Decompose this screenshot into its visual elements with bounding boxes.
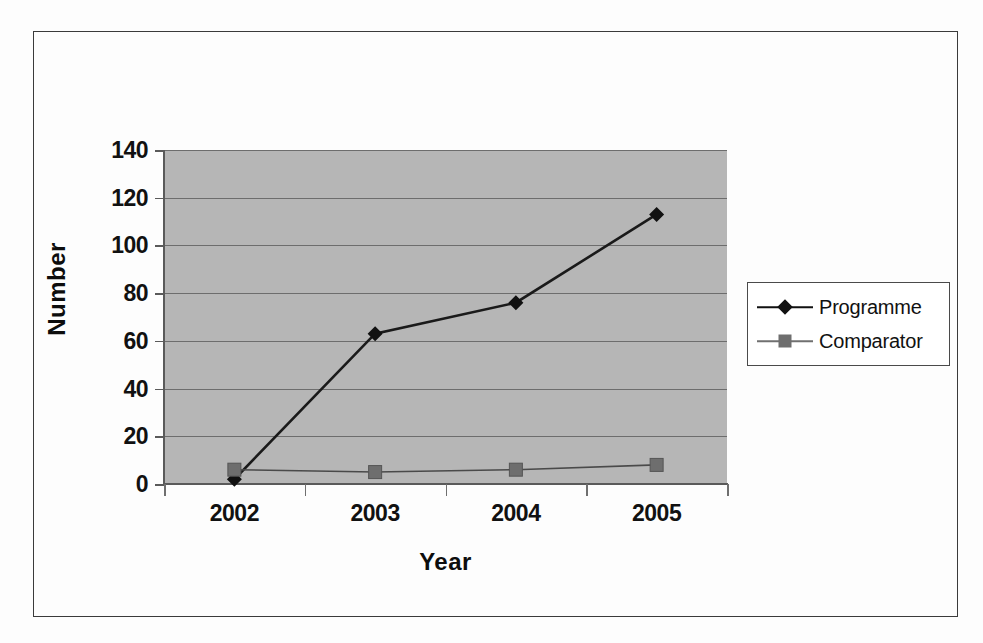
data-point-diamond-icon	[649, 207, 664, 222]
legend-marker-diamond-icon	[757, 296, 813, 318]
series-line	[234, 465, 656, 472]
x-axis-tick-label: 2005	[632, 500, 681, 527]
y-axis-tick-label: 60	[123, 327, 148, 354]
y-axis-title: Number	[43, 224, 71, 354]
y-axis-tick-label: 120	[111, 184, 148, 211]
x-axis-tick-label: 2004	[491, 500, 540, 527]
y-axis-tick-mark	[155, 245, 164, 247]
series-programme	[227, 207, 664, 487]
x-axis-tick-mark	[305, 484, 307, 496]
series-line	[234, 214, 656, 479]
y-axis-tick-mark	[155, 484, 164, 486]
y-axis-tick-labels: 020406080100120140	[86, 150, 148, 484]
x-axis-tick-mark	[727, 484, 729, 496]
y-axis-tick-mark	[155, 293, 164, 295]
legend-item-programme[interactable]: Programme	[748, 290, 949, 324]
x-axis-tick-mark	[164, 484, 166, 496]
series-comparator	[228, 458, 663, 478]
y-axis-tick-mark	[155, 341, 164, 343]
y-axis-tick-label: 100	[111, 232, 148, 259]
x-axis-title: Year	[164, 548, 727, 576]
y-axis-tick-label: 40	[123, 375, 148, 402]
y-axis-tick-mark	[155, 198, 164, 200]
data-point-square-icon	[228, 463, 241, 476]
data-point-diamond-icon	[508, 295, 523, 310]
y-axis-tick-label: 80	[123, 280, 148, 307]
y-axis-tick-mark	[155, 150, 164, 152]
legend-label-comparator: Comparator	[819, 330, 923, 353]
y-axis-tick-mark	[155, 389, 164, 391]
y-axis-tick-label: 0	[136, 471, 148, 498]
data-point-square-icon	[650, 458, 663, 471]
data-point-square-icon	[369, 466, 382, 479]
chart-figure: Number 020406080100120140 Year Programme…	[0, 0, 983, 643]
x-axis-tick-label: 2002	[210, 500, 259, 527]
legend-item-comparator[interactable]: Comparator	[748, 324, 949, 358]
x-axis-tick-mark	[586, 484, 588, 496]
chart-legend: Programme Comparator	[747, 282, 950, 366]
legend-marker-square-icon	[757, 330, 813, 352]
data-point-square-icon	[509, 463, 522, 476]
y-axis-tick-label: 140	[111, 137, 148, 164]
y-axis-tick-label: 20	[123, 423, 148, 450]
legend-label-programme: Programme	[819, 296, 922, 319]
x-axis-tick-label: 2003	[351, 500, 400, 527]
y-axis-tick-mark	[155, 436, 164, 438]
x-axis-tick-mark	[446, 484, 448, 496]
data-series-layer	[164, 150, 727, 484]
